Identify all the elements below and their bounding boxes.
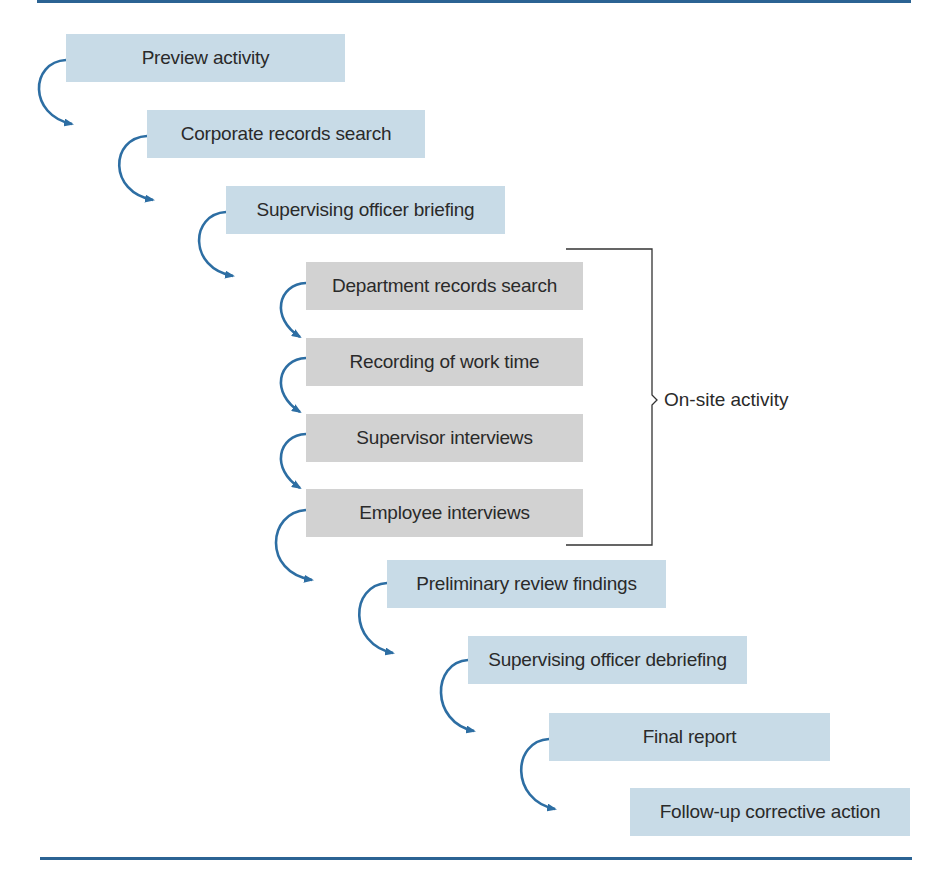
step-label: Final report (643, 726, 737, 748)
bottom-rule (40, 857, 912, 860)
step-label: Preliminary review findings (416, 573, 637, 595)
arrow-6-7 (281, 434, 306, 488)
step-label: Department records search (332, 275, 557, 297)
step-recording-of-work-time: Recording of work time (306, 338, 583, 386)
on-site-activity-label: On-site activity (664, 389, 789, 411)
step-label: Preview activity (142, 47, 270, 69)
arrow-4-5 (281, 283, 306, 337)
step-label: Supervising officer briefing (257, 199, 475, 221)
step-final-report: Final report (549, 713, 830, 761)
step-label: Supervising officer debriefing (488, 649, 727, 671)
step-department-records-search: Department records search (306, 262, 583, 310)
step-preliminary-review-findings: Preliminary review findings (387, 560, 666, 608)
step-label: Follow-up corrective action (660, 801, 881, 823)
step-label: Corporate records search (181, 123, 392, 145)
step-supervisor-interviews: Supervisor interviews (306, 414, 583, 462)
step-preview-activity: Preview activity (66, 34, 345, 82)
step-corporate-records-search: Corporate records search (147, 110, 425, 158)
step-label: Employee interviews (359, 502, 529, 524)
step-supervising-officer-briefing: Supervising officer briefing (226, 186, 505, 234)
step-label: Recording of work time (350, 351, 540, 373)
step-follow-up-corrective-action: Follow-up corrective action (630, 788, 910, 836)
step-supervising-officer-debriefing: Supervising officer debriefing (468, 636, 747, 684)
step-label: Supervisor interviews (356, 427, 532, 449)
arrow-5-6 (281, 358, 306, 412)
step-employee-interviews: Employee interviews (306, 489, 583, 537)
